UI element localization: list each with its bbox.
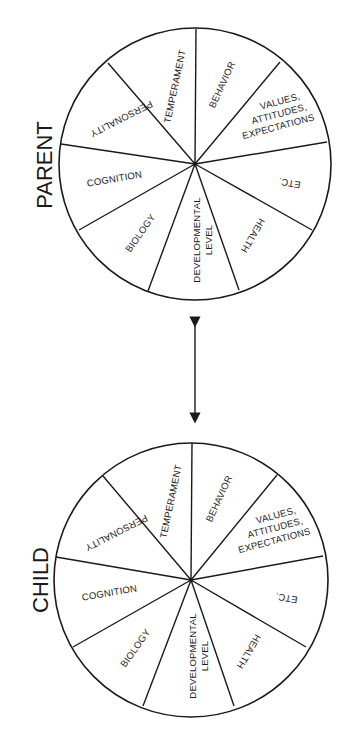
child-title: CHILD (28, 547, 53, 613)
svg-text:DEVELOPMENTAL: DEVELOPMENTAL (187, 613, 198, 698)
child-wheel: CHILD TEMPERAMENT BEHAVIOR VALUES, ATTIT… (28, 443, 328, 717)
parent-title: PARENT (32, 121, 57, 209)
svg-text:LEVEL: LEVEL (203, 225, 214, 256)
parent-wheel: PARENT TEMPERAMENT BEHAVIOR VALUES, ATTI… (32, 28, 331, 300)
svg-text:LEVEL: LEVEL (199, 641, 210, 672)
child-wheel-hub (189, 578, 193, 582)
parent-child-diagram: PARENT TEMPERAMENT BEHAVIOR VALUES, ATTI… (0, 0, 363, 754)
svg-text:DEVELOPMENTAL: DEVELOPMENTAL (191, 197, 202, 282)
parent-wheel-hub (193, 162, 197, 166)
